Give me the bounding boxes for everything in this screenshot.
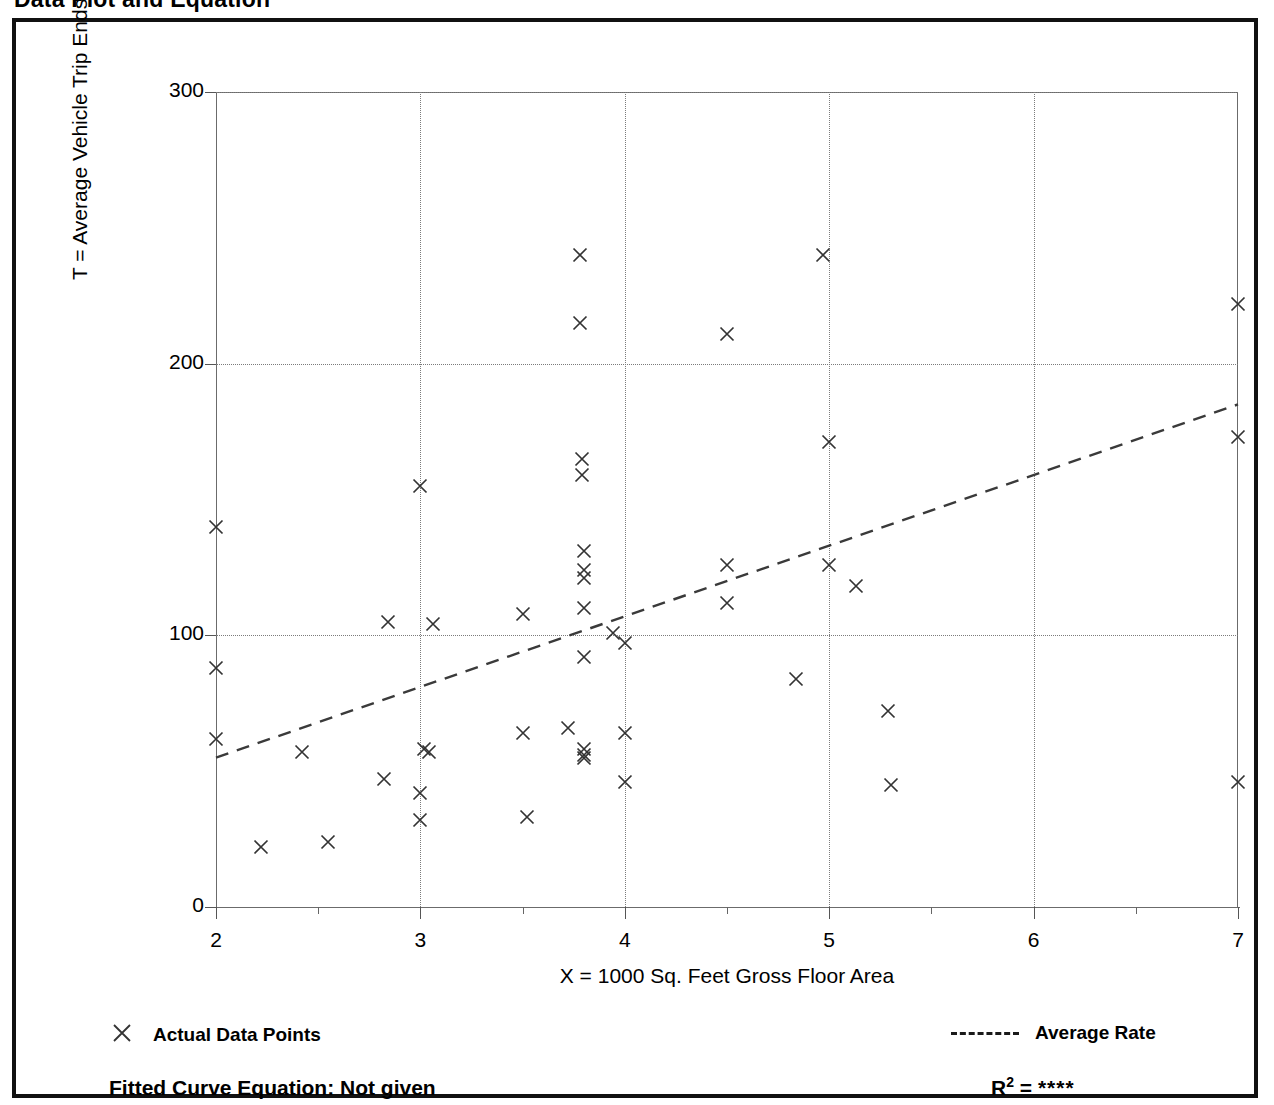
r2-exponent: 2 xyxy=(1006,1074,1014,1090)
x-axis-tick xyxy=(216,907,217,919)
y-axis-title: T = Average Vehicle Trip Ends xyxy=(68,0,92,280)
r-squared-value: R2 = **** xyxy=(991,1074,1075,1100)
plot-area: 0100200300234567 xyxy=(216,92,1238,907)
x-axis-tick xyxy=(829,907,830,919)
chart-page: Data Plot and Equation 0100200300234567 … xyxy=(0,0,1274,1105)
y-axis-tick xyxy=(205,907,216,908)
x-axis-minor-tick xyxy=(523,907,524,914)
x-axis-minor-tick xyxy=(931,907,932,914)
legend-line-label: Average Rate xyxy=(1035,1022,1156,1044)
x-axis-tick xyxy=(1034,907,1035,919)
y-axis-tick-label: 100 xyxy=(169,621,204,645)
r2-symbol: R xyxy=(991,1076,1006,1099)
x-axis-tick-label: 3 xyxy=(415,928,427,952)
x-axis-tick xyxy=(1238,907,1239,919)
chart-frame: 0100200300234567 T = Average Vehicle Tri… xyxy=(12,18,1258,1098)
legend-average-rate: Average Rate xyxy=(951,1022,1156,1044)
y-axis-tick xyxy=(205,92,216,93)
average-rate-trendline xyxy=(216,92,1238,907)
r2-stars: **** xyxy=(1038,1076,1075,1099)
y-axis-tick xyxy=(205,635,216,636)
x-axis-minor-tick xyxy=(1136,907,1137,914)
x-marker-icon xyxy=(111,1022,133,1048)
y-axis-tick-label: 300 xyxy=(169,78,204,102)
y-axis-tick-label: 200 xyxy=(169,350,204,374)
y-axis-tick-label: 0 xyxy=(192,893,204,917)
x-axis-tick xyxy=(625,907,626,919)
y-axis-tick xyxy=(205,364,216,365)
r2-equals: = xyxy=(1014,1076,1038,1099)
x-axis-minor-tick xyxy=(727,907,728,914)
x-axis-tick-label: 4 xyxy=(619,928,631,952)
x-axis-minor-tick xyxy=(318,907,319,914)
legend-points-label: Actual Data Points xyxy=(153,1024,321,1046)
x-axis-tick xyxy=(420,907,421,919)
dashed-line-icon xyxy=(951,1032,1019,1035)
x-axis-tick-label: 7 xyxy=(1232,928,1244,952)
fitted-curve-equation: Fitted Curve Equation: Not given xyxy=(109,1076,436,1100)
x-axis-title: X = 1000 Sq. Feet Gross Floor Area xyxy=(216,964,1238,988)
legend-actual-data-points: Actual Data Points xyxy=(111,1022,321,1048)
x-axis-tick-label: 5 xyxy=(823,928,835,952)
page-title: Data Plot and Equation xyxy=(14,0,270,13)
x-axis-tick-label: 6 xyxy=(1028,928,1040,952)
x-axis-tick-label: 2 xyxy=(210,928,222,952)
